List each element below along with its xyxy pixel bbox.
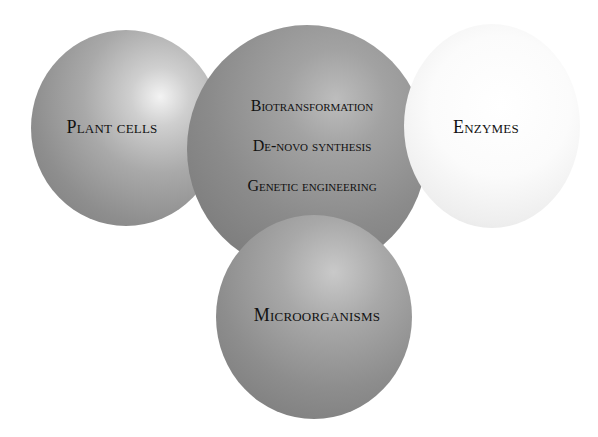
center-methods-list: Biotransformation De-novo synthesis Gene… bbox=[247, 96, 376, 216]
enzymes-label: Enzymes bbox=[453, 117, 519, 138]
method-biotransformation: Biotransformation bbox=[251, 96, 374, 115]
microorganisms-label: Microorganisms bbox=[254, 305, 380, 326]
method-de-novo-synthesis: De-novo synthesis bbox=[253, 136, 372, 155]
plant-cells-label: Plant cells bbox=[66, 117, 157, 138]
method-genetic-engineering: Genetic engineering bbox=[247, 176, 376, 195]
